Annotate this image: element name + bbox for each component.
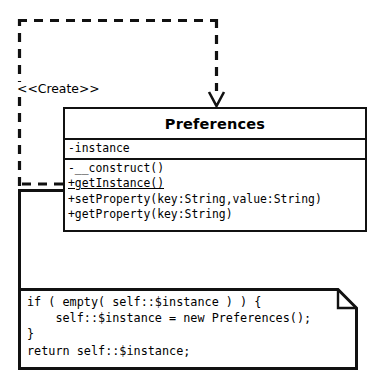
note-box[interactable]: if ( empty( self::$instance ) ) { self::… xyxy=(18,288,358,370)
note-anchor-line xyxy=(20,191,64,291)
class-operation-row: +getProperty(key:String) xyxy=(68,207,362,222)
dependency-stereotype-label: <<Create>> xyxy=(16,82,101,96)
class-operation-row: -__construct() xyxy=(68,161,362,176)
class-box-preferences[interactable]: Preferences -instance -__construct() +ge… xyxy=(63,107,367,232)
note-body-text: if ( empty( self::$instance ) ) { self::… xyxy=(27,294,352,359)
class-name-label: Preferences xyxy=(165,116,265,132)
class-operation-row-static: +getInstance() xyxy=(68,176,362,191)
class-attributes-compartment: -instance xyxy=(65,140,365,160)
class-attribute-row: -instance xyxy=(68,141,362,156)
class-operations-compartment: -__construct() +getInstance() +setProper… xyxy=(65,160,365,224)
class-operation-row: +setProperty(key:String,value:String) xyxy=(68,192,362,207)
class-name-compartment: Preferences xyxy=(65,109,365,140)
dependency-arrowhead-icon xyxy=(209,92,224,106)
note-anchor-connector xyxy=(20,191,64,291)
uml-class-diagram: Preferences -instance -__construct() +ge… xyxy=(0,0,380,387)
